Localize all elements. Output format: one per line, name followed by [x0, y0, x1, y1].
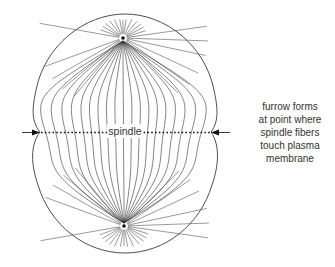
annotation-line: membrane [250, 152, 330, 165]
top-aster-rays [40, 19, 208, 96]
annotation-line: furrow forms [250, 100, 330, 113]
annotation-line: spindle fibers [250, 126, 330, 139]
annotation-line: touch plasma [250, 139, 330, 152]
spindle-label: spindle [107, 124, 143, 138]
bottom-pole-centrosome [122, 224, 126, 228]
bottom-aster-rays [41, 168, 209, 247]
furrow-annotation: furrow forms at point where spindle fibe… [250, 100, 330, 165]
left-furrow-arrow [22, 130, 40, 136]
right-furrow-arrow [211, 130, 230, 136]
annotation-line: at point where [250, 113, 330, 126]
top-pole-centrosome [121, 36, 125, 40]
